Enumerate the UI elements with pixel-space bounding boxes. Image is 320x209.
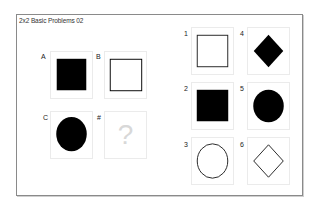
filled-circle-icon bbox=[51, 112, 92, 158]
answer-option-3[interactable] bbox=[191, 137, 234, 185]
outline-square-icon bbox=[105, 52, 146, 98]
question-mark-icon: ? bbox=[105, 112, 146, 158]
matrix-cell-c bbox=[50, 111, 93, 159]
option-1-label: 1 bbox=[184, 30, 188, 37]
answer-option-4[interactable] bbox=[247, 27, 290, 75]
matrix-cell-b bbox=[104, 51, 147, 99]
cell-c-label: C bbox=[43, 114, 48, 121]
outline-diamond-icon bbox=[248, 138, 289, 184]
answer-option-1[interactable] bbox=[191, 27, 234, 75]
option-3-label: 3 bbox=[184, 141, 188, 148]
matrix-cell-a bbox=[50, 51, 93, 99]
problem-title: 2x2 Basic Problems 02 bbox=[19, 17, 83, 24]
option-6-label: 6 bbox=[240, 141, 244, 148]
option-5-label: 5 bbox=[240, 85, 244, 92]
option-2-label: 2 bbox=[184, 85, 188, 92]
outline-square-icon bbox=[192, 28, 233, 74]
answer-option-5[interactable] bbox=[247, 82, 290, 130]
answer-option-6[interactable] bbox=[247, 137, 290, 185]
cell-unknown-label: # bbox=[97, 114, 101, 121]
outline-circle-icon bbox=[192, 138, 233, 184]
answer-option-2[interactable] bbox=[191, 82, 234, 130]
filled-square-icon bbox=[51, 52, 92, 98]
filled-circle-icon bbox=[248, 83, 289, 129]
cell-b-label: B bbox=[96, 53, 101, 60]
matrix-cell-unknown: ? bbox=[104, 111, 147, 159]
filled-diamond-icon bbox=[248, 28, 289, 74]
filled-square-icon bbox=[192, 83, 233, 129]
option-4-label: 4 bbox=[240, 30, 244, 37]
cell-a-label: A bbox=[41, 53, 46, 60]
